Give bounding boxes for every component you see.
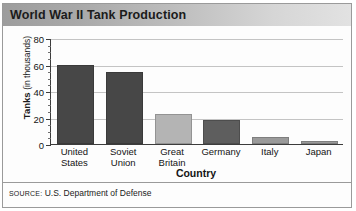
bar-italy[interactable]: [252, 137, 289, 144]
source-note: SOURCE: U.S. Department of Defense: [9, 188, 151, 198]
chart-title-bar: World War II Tank Production: [3, 4, 351, 26]
bar-germany[interactable]: [203, 120, 240, 144]
x-axis-label-line: Japan: [294, 147, 343, 158]
y-axis-tick-label: 60: [33, 60, 44, 71]
y-axis-tick: [46, 145, 51, 146]
x-axis-label-line: United: [50, 147, 99, 158]
x-axis-label-germany: Germany: [197, 147, 246, 158]
y-axis-title-main: Tanks: [21, 92, 32, 119]
bar-slot: [198, 39, 247, 144]
chart-figure: World War II Tank Production Tanks (in t…: [0, 0, 356, 211]
bar-slot: [295, 39, 344, 144]
x-axis-label-japan: Japan: [294, 147, 343, 158]
bar-slot: [246, 39, 295, 144]
x-axis-label-italy: Italy: [245, 147, 294, 158]
bar-great-britain[interactable]: [155, 114, 192, 144]
source-text: U.S. Department of Defense: [45, 188, 152, 198]
y-axis-title: Tanks (in thousands): [21, 23, 32, 133]
bar-slot: [149, 39, 198, 144]
x-axis-label-line: Great: [148, 147, 197, 158]
source-divider: [3, 182, 351, 183]
x-axis-title: Country: [50, 167, 342, 179]
bar-japan[interactable]: [301, 141, 338, 144]
y-axis-title-unit: (in thousands): [22, 36, 32, 90]
page-title: World War II Tank Production: [3, 8, 186, 22]
y-axis-tick-label: 40: [33, 87, 44, 98]
x-axis-label-great-britain: GreatBritain: [148, 147, 197, 168]
bar-slot: [51, 39, 100, 144]
chart-plot-container: Tanks (in thousands) 020406080 UnitedSta…: [3, 26, 351, 182]
x-axis-label-line: Italy: [245, 147, 294, 158]
y-axis-tick-label: 80: [33, 34, 44, 45]
source-label: SOURCE:: [9, 190, 42, 197]
plot-area: 020406080: [50, 39, 343, 145]
bar-soviet-union[interactable]: [106, 72, 143, 144]
bar-slot: [100, 39, 149, 144]
y-axis-tick-label: 0: [39, 140, 44, 151]
x-axis-label-soviet-union: SovietUnion: [99, 147, 148, 168]
x-axis-label-united-states: UnitedStates: [50, 147, 99, 168]
bar-united-states[interactable]: [57, 65, 94, 145]
x-axis-label-line: Germany: [197, 147, 246, 158]
y-axis-tick-label: 20: [33, 113, 44, 124]
x-axis-label-line: Soviet: [99, 147, 148, 158]
bar-series: [51, 39, 343, 144]
